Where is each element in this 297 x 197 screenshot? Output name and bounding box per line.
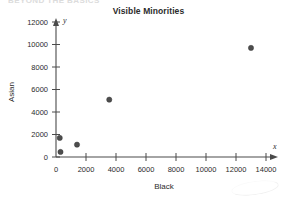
y-axis-ticks: 020004000600080001000012000 [27,18,60,162]
plot-area: 020004000600080001000012000 020004000600… [0,0,297,197]
x-axis-symbol: x [272,142,277,151]
x-tick-label: 2000 [78,165,95,174]
y-tick-label: 6000 [31,85,48,94]
x-axis-label: Black [154,182,175,191]
y-tick-label: 10000 [27,40,48,49]
y-axis-symbol: y [62,16,67,25]
x-axis [56,154,278,160]
data-point [74,142,79,147]
data-point-group [57,45,253,154]
x-tick-label: 4000 [108,165,125,174]
data-point [57,135,62,140]
x-tick-label: 6000 [138,165,155,174]
x-axis-ticks: 02000400060008000100001200014000 [54,153,277,174]
data-point [58,149,63,154]
x-tick-label: 8000 [168,165,185,174]
x-tick-label: 0 [54,165,58,174]
scatter-chart-figure: BEYOND THE BASICS Visible Minorities 020… [0,0,297,197]
x-tick-label: 10000 [196,165,217,174]
x-tick-label: 12000 [226,165,247,174]
data-point [107,97,112,102]
data-point [248,45,253,50]
y-axis-label: Asian [7,82,16,102]
y-tick-label: 12000 [27,18,48,27]
y-tick-label: 8000 [31,63,48,72]
x-tick-label: 14000 [256,165,277,174]
y-tick-label: 2000 [31,130,48,139]
y-tick-label: 4000 [31,108,48,117]
y-tick-label: 0 [44,153,48,162]
